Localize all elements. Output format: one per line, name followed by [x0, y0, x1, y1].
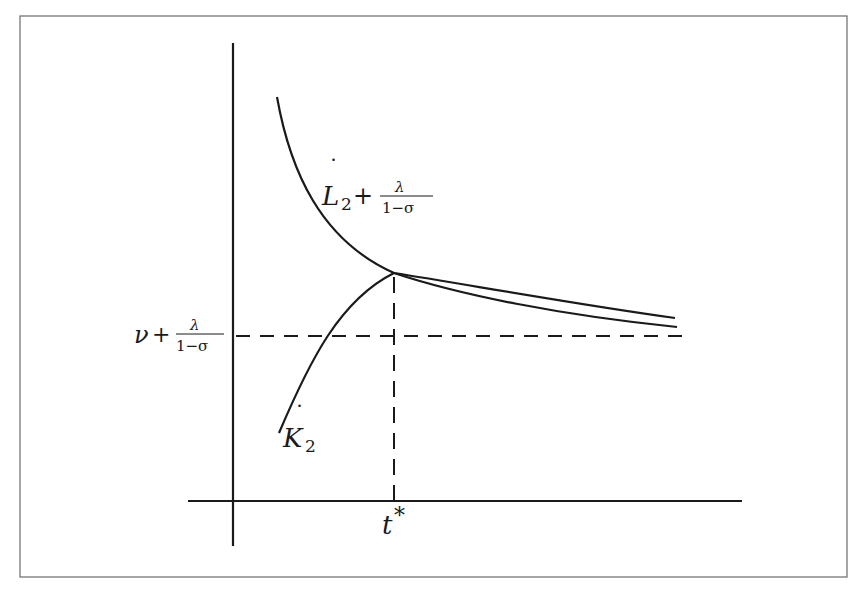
- label-L-frac-num: λ: [394, 178, 405, 196]
- label-K-subscript: 2: [305, 436, 316, 456]
- label-nu-frac-den: 1−σ: [176, 337, 208, 355]
- label-L-dot: ˙: [328, 156, 339, 181]
- diagram-canvas: L ˙ 2 + λ 1−σ K ˙ 2 ν + λ 1−σ t *: [0, 0, 864, 596]
- asymptote-label: ν + λ 1−σ: [134, 316, 224, 355]
- upper-curve-label: L ˙ 2 + λ 1−σ: [321, 156, 433, 217]
- label-t: t: [382, 510, 393, 540]
- label-nu: ν: [134, 321, 149, 349]
- label-K-dot: ˙: [294, 402, 305, 427]
- label-t-star: *: [394, 503, 405, 528]
- label-L-plus: +: [353, 182, 373, 210]
- label-nu-plus: +: [152, 322, 170, 347]
- t-star-label: t *: [382, 503, 405, 540]
- label-L-frac-den: 1−σ: [382, 199, 414, 217]
- label-L: L: [321, 181, 339, 211]
- lower-curve-K2: [279, 273, 677, 433]
- figure-frame: [20, 16, 847, 577]
- lower-curve-label: K ˙ 2: [282, 402, 316, 456]
- label-K: K: [282, 423, 304, 453]
- label-L-subscript: 2: [341, 194, 352, 214]
- label-nu-frac-num: λ: [189, 316, 200, 334]
